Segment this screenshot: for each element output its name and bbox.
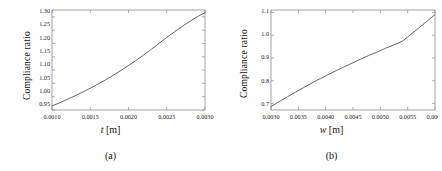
x-axis-unit-b: [m]	[329, 124, 343, 135]
data-curve-a	[52, 13, 205, 106]
y-tick-label: 1.05	[39, 74, 50, 81]
y-tick-label: 1.30	[39, 7, 50, 14]
subcaption-a: (a)	[0, 150, 221, 161]
y-tick-label: 0.95	[39, 100, 50, 107]
x-axis-label-b: w [m]	[221, 124, 442, 135]
plot-frame-b	[271, 10, 435, 110]
x-axis-label-a: t [m]	[0, 124, 221, 135]
y-tick-label: 1.10	[39, 60, 50, 67]
y-tick-label: 0.7	[261, 100, 269, 107]
x-tick-label: 0.0045	[344, 113, 361, 120]
data-curve-b	[271, 15, 435, 107]
y-tick-label: 1.0	[261, 30, 269, 37]
x-tick-label: 0.0015	[82, 113, 99, 120]
chart-svg-b: 1.1 1.0 0.9 0.8 0.7	[243, 0, 438, 130]
chart-svg-a: 1.30 1.25 1.20 1.15 1.10 1.05 1.00 0.95	[31, 0, 216, 130]
x-tick-label: 0.0020	[120, 113, 137, 120]
figure-row: Compliance ratio 1.30 1.25 1.20 1.15 1.1…	[0, 0, 442, 171]
x-tick-label: 0.0055	[399, 113, 416, 120]
subcaption-b: (b)	[221, 150, 442, 161]
plot-area-a: Compliance ratio 1.30 1.25 1.20 1.15 1.1…	[0, 0, 221, 145]
x-tick-label: 0.0030	[262, 113, 279, 120]
y-tick-label: 1.15	[39, 47, 50, 54]
y-tick-label: 0.9	[261, 53, 269, 60]
y-tick-label: 1.25	[39, 20, 50, 27]
x-tick-label: 0.0010	[43, 113, 60, 120]
y-tick-label: 0.8	[261, 77, 269, 84]
y-tick-label: 1.1	[261, 7, 269, 14]
x-tick-label: 0.0040	[317, 113, 334, 120]
x-axis-variable-b: w	[320, 124, 327, 135]
x-tick-label: 0.0050	[372, 113, 389, 120]
plot-area-b: Compliance ratio 1.1 1.0 0.9 0.8 0.7	[221, 0, 442, 145]
subfigure-b: Compliance ratio 1.1 1.0 0.9 0.8 0.7	[221, 0, 442, 171]
x-tick-label: 0.0030	[196, 113, 213, 120]
y-tick-label: 1.00	[39, 87, 50, 94]
x-tick-label: 0.0035	[290, 113, 307, 120]
x-tick-label: 0.0060	[426, 113, 438, 120]
x-tick-label: 0.0025	[158, 113, 175, 120]
plot-frame-a	[52, 10, 205, 110]
x-axis-variable-a: t	[101, 124, 104, 135]
x-axis-unit-a: [m]	[106, 124, 120, 135]
subfigure-a: Compliance ratio 1.30 1.25 1.20 1.15 1.1…	[0, 0, 221, 171]
y-tick-label: 1.20	[39, 34, 50, 41]
